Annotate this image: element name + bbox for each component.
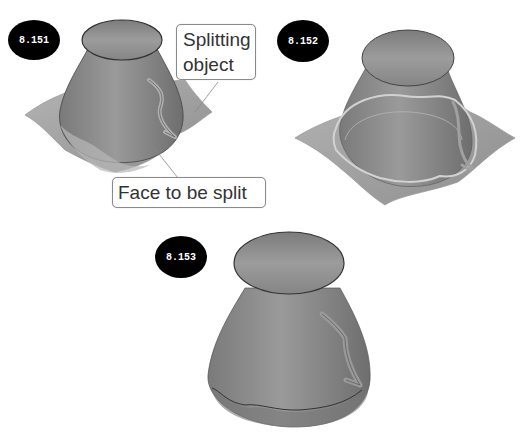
vase-top-opening xyxy=(82,20,162,60)
callout-text: Face to be split xyxy=(118,182,247,203)
figure-8-153 xyxy=(208,232,370,427)
callout-line-2: object xyxy=(183,52,255,77)
figure-badge-8-152: 8.152 xyxy=(277,20,329,62)
vase-top-opening xyxy=(362,30,454,86)
figure-number-label: 8.151 xyxy=(19,35,49,46)
callout-face-to-be-split: Face to be split xyxy=(112,177,266,208)
callout-line-1: Splitting xyxy=(183,27,255,52)
callout-splitting-object: Splitting object xyxy=(176,24,256,80)
figure-badge-8-151: 8.151 xyxy=(8,20,60,60)
figure-number-label: 8.153 xyxy=(166,252,196,263)
figure-8-152 xyxy=(295,30,515,205)
figure-canvas xyxy=(0,0,528,438)
figure-number-label: 8.152 xyxy=(288,36,318,47)
figure-badge-8-153: 8.153 xyxy=(155,236,207,278)
vase-top-opening xyxy=(234,232,344,294)
